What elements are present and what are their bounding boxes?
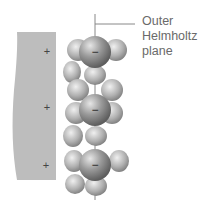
minus-sign: − bbox=[91, 158, 98, 172]
plus-sign: + bbox=[44, 45, 50, 57]
ohp-label-line3: plane bbox=[142, 44, 198, 59]
minus-sign: − bbox=[91, 45, 98, 59]
ohp-label-line2: Helmholtz bbox=[142, 29, 198, 44]
plus-sign: + bbox=[44, 101, 50, 113]
ohp-label: Outer Helmholtz plane bbox=[142, 14, 198, 59]
ohp-label-line1: Outer bbox=[142, 14, 198, 29]
plus-sign: + bbox=[43, 159, 49, 171]
minus-sign: − bbox=[91, 103, 98, 117]
